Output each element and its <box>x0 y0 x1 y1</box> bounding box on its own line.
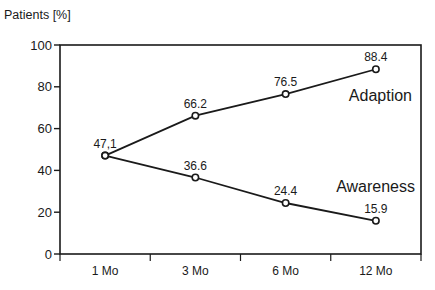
series-lines <box>102 66 379 224</box>
marker-circle-icon <box>373 66 379 72</box>
marker-circle-icon <box>282 200 288 206</box>
marker-circle-icon <box>192 112 198 118</box>
x-tick-label: 12 Mo <box>359 264 393 278</box>
series-line-adaption <box>105 69 376 155</box>
data-label: 36.6 <box>184 159 208 173</box>
y-tick-label: 20 <box>38 205 52 220</box>
y-tick-label: 80 <box>38 79 52 94</box>
marker-circle-icon <box>282 91 288 97</box>
y-tick-label: 100 <box>30 38 52 53</box>
y-tick-label: 0 <box>45 247 52 262</box>
line-chart: 0204060801001 Mo3 Mo6 Mo12 Mo 47,166.276… <box>0 0 435 290</box>
data-label: 47,1 <box>93 137 117 151</box>
x-tick-label: 3 Mo <box>182 264 209 278</box>
series-name-awareness: Awareness <box>336 178 415 195</box>
y-tick-label: 60 <box>38 121 52 136</box>
x-tick-label: 1 Mo <box>92 264 119 278</box>
y-tick-label: 40 <box>38 163 52 178</box>
data-label: 66.2 <box>184 97 208 111</box>
marker-circle-icon <box>192 174 198 180</box>
data-labels: 47,166.276.588.436.624.415.9AdaptionAwar… <box>93 50 415 216</box>
data-label: 24.4 <box>274 184 298 198</box>
marker-circle-icon <box>373 218 379 224</box>
data-label: 76.5 <box>274 75 298 89</box>
data-label: 15.9 <box>364 202 388 216</box>
marker-circle-icon <box>102 152 108 158</box>
series-name-adaption: Adaption <box>349 87 412 104</box>
x-tick-label: 6 Mo <box>272 264 299 278</box>
data-label: 88.4 <box>364 50 388 64</box>
